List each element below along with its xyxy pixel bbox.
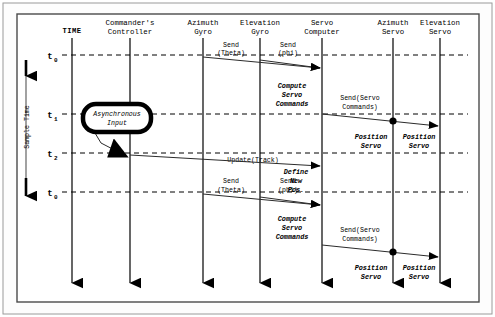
tick-t1-base: t	[47, 111, 52, 121]
time-column-header: TIME	[63, 27, 82, 35]
action-position-servo-azimuth-2-line2: Servo	[361, 273, 381, 281]
sample-time-label: Sample Time	[24, 105, 31, 149]
action-compute-servo-commands-1-line2: Servo	[282, 91, 302, 99]
lifeline-label-azimuth-servo-line1: Azimuth	[377, 19, 408, 27]
tick-t1-sub: 1	[54, 116, 58, 123]
lifeline-label-servo-computer-line2: Computer	[304, 28, 339, 36]
action-compute-servo-commands-1-line1: Compute	[278, 82, 307, 90]
message-send-theta-2-line2: (Theta)	[217, 187, 245, 194]
message-send-phi-2-line2: (phi)	[278, 187, 298, 194]
azimuth-servo-receive-dot-1	[389, 117, 396, 124]
lifeline-label-servo-computer-line1: Servo	[311, 19, 333, 27]
lifeline-label-elevation-gyro-line2: Gyro	[251, 28, 269, 36]
action-compute-servo-commands-2-line2: Servo	[282, 224, 302, 232]
lifeline-label-azimuth-gyro-line1: Azimuth	[187, 19, 218, 27]
action-position-servo-elevation-2-line2: Servo	[409, 273, 429, 281]
message-send-servo-commands-1-line2: Commands)	[342, 104, 378, 111]
tick-t0-first-sub: 0	[54, 57, 58, 64]
tick-t0-first-base: t	[47, 52, 52, 62]
action-define-new-pos-line1: Define	[284, 168, 308, 176]
message-send-servo-commands-2-line1: Send(Servo	[340, 227, 380, 234]
lifeline-label-commanders-controller-line2: Controller	[108, 28, 152, 36]
sequence-diagram-page: Sample Time TIME Commander's Controller …	[0, 0, 495, 317]
action-position-servo-azimuth-2-line1: Position	[355, 264, 388, 272]
tick-t0-second-base: t	[47, 189, 52, 199]
action-position-servo-elevation-1-line1: Position	[403, 133, 436, 141]
lifeline-label-azimuth-gyro-line2: Gyro	[194, 28, 212, 36]
action-compute-servo-commands-1-line3: Commands	[276, 100, 309, 108]
message-send-theta-1-line1: Send	[223, 42, 239, 49]
action-position-servo-elevation-2-line1: Position	[403, 264, 436, 272]
lifeline-label-commanders-controller-line1: Commander's	[106, 19, 155, 27]
tick-t2-sub: 2	[54, 155, 58, 162]
message-send-theta-1-line2: (Theta)	[217, 50, 245, 57]
action-compute-servo-commands-2-line1: Compute	[278, 215, 307, 223]
message-send-phi-2-line1: Send	[280, 178, 296, 185]
lifeline-label-elevation-servo-line1: Elevation	[420, 19, 460, 27]
asynchronous-input-box[interactable]	[83, 104, 151, 132]
lifeline-label-elevation-gyro-line1: Elevation	[240, 19, 280, 27]
asynchronous-input-line2: Input	[107, 120, 127, 127]
message-send-theta-2-line1: Send	[223, 178, 239, 185]
action-position-servo-elevation-1-line2: Servo	[409, 142, 429, 150]
message-send-servo-commands-2-line2: Commands)	[342, 236, 378, 243]
action-position-servo-azimuth-1-line2: Servo	[361, 142, 381, 150]
lifeline-label-elevation-servo-line2: Servo	[429, 28, 451, 36]
asynchronous-input-line1: Asynchronous	[92, 111, 141, 118]
lifeline-label-azimuth-servo-line2: Servo	[382, 28, 404, 36]
message-send-phi-1-line1: Send	[280, 42, 296, 49]
sequence-diagram-canvas: Sample Time TIME Commander's Controller …	[0, 0, 495, 317]
message-send-phi-1-line2: (phi)	[278, 50, 298, 57]
action-compute-servo-commands-2-line3: Commands	[276, 233, 309, 241]
azimuth-servo-receive-dot-2	[389, 248, 396, 255]
tick-t0-second-sub: 0	[54, 194, 58, 201]
tick-t2-base: t	[47, 150, 52, 160]
action-position-servo-azimuth-1-line1: Position	[355, 133, 388, 141]
message-send-servo-commands-1-line1: Send(Servo	[340, 95, 380, 102]
